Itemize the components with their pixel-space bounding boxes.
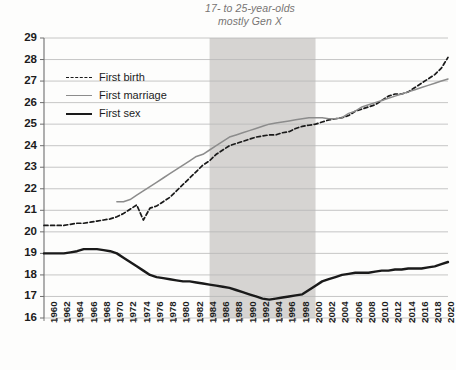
legend-label-first-marriage: First marriage — [99, 89, 167, 101]
x-axis-tick-label: 1976 — [154, 301, 165, 323]
y-axis-tick-label: 17 — [1, 289, 37, 301]
x-axis-tick-label: 2016 — [419, 301, 430, 323]
x-axis-tick-label: 2004 — [339, 301, 350, 323]
x-axis-tick-label: 2006 — [353, 301, 364, 323]
x-axis-tick-label: 1992 — [260, 301, 271, 323]
y-axis-tick-label: 29 — [1, 31, 37, 43]
shaded-band — [210, 38, 316, 318]
x-axis-tick-label: 1962 — [61, 301, 72, 323]
x-axis-tick-label: 1996 — [286, 301, 297, 323]
y-axis-tick-label: 21 — [1, 203, 37, 215]
x-axis-tick-label: 1982 — [194, 301, 205, 323]
x-axis-tick-label: 1968 — [101, 301, 112, 323]
x-axis-tick-label: 2008 — [366, 301, 377, 323]
y-axis-tick-label: 28 — [1, 53, 37, 65]
x-axis-tick-label: 1974 — [141, 301, 152, 323]
x-axis-tick-label: 1960 — [48, 301, 59, 323]
x-axis-tick-label: 1978 — [167, 301, 178, 323]
x-axis-tick-label: 2002 — [326, 301, 337, 323]
x-axis-tick-label: 2000 — [313, 301, 324, 323]
x-axis-tick-label: 1970 — [114, 301, 125, 323]
x-axis-tick-label: 2014 — [406, 301, 417, 323]
x-axis-tick-label: 1980 — [180, 301, 191, 323]
x-axis-tick-label: 1986 — [220, 301, 231, 323]
y-axis-tick-label: 16 — [1, 311, 37, 323]
x-axis-tick-label: 2018 — [432, 301, 443, 323]
legend-swatch-first-marriage — [66, 90, 92, 100]
x-axis-tick-label: 1990 — [247, 301, 258, 323]
legend-item: First birth — [66, 68, 167, 86]
legend-swatch-first-sex — [66, 108, 92, 118]
x-axis-tick-label: 1966 — [88, 301, 99, 323]
legend-label-first-birth: First birth — [99, 71, 145, 83]
y-axis-tick-label: 23 — [1, 160, 37, 172]
x-axis-tick-label: 2012 — [392, 301, 403, 323]
x-axis-tick-label: 1988 — [233, 301, 244, 323]
legend-item: First marriage — [66, 86, 167, 104]
legend-item: First sex — [66, 104, 167, 122]
x-axis-tick-label: 2020 — [445, 301, 456, 323]
x-axis-tick-label: 2010 — [379, 301, 390, 323]
legend-swatch-first-birth — [66, 72, 92, 82]
x-axis-tick-label: 1994 — [273, 301, 284, 323]
x-axis-tick-label: 1984 — [207, 301, 218, 323]
legend-label-first-sex: First sex — [99, 107, 141, 119]
y-axis-tick-label: 24 — [1, 139, 37, 151]
y-axis-tick-label: 18 — [1, 268, 37, 280]
y-axis-tick-label: 19 — [1, 246, 37, 258]
y-axis-tick-label: 20 — [1, 225, 37, 237]
x-axis-tick-label: 1964 — [74, 301, 85, 323]
y-axis-tick-label: 27 — [1, 74, 37, 86]
y-axis-tick-label: 22 — [1, 182, 37, 194]
y-axis-tick-label: 25 — [1, 117, 37, 129]
x-axis-tick-label: 1998 — [300, 301, 311, 323]
chart-legend: First birth First marriage First sex — [66, 68, 167, 122]
x-axis-tick-label: 1972 — [127, 301, 138, 323]
y-axis-tick-label: 26 — [1, 96, 37, 108]
